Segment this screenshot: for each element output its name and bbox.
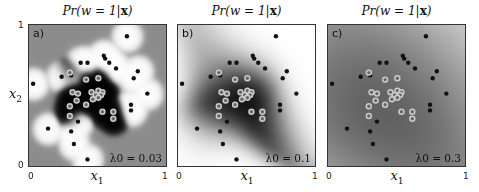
heatmap-canvas	[178, 25, 315, 166]
panel-c-label: c)	[332, 27, 342, 40]
panel-b-heatmap: b) λ0 = 0.1	[177, 24, 316, 167]
panel-a-heatmap: a) λ0 = 0.03	[28, 24, 167, 167]
y-axis-label: x2	[9, 86, 22, 104]
y-tick-1: 1	[18, 20, 24, 30]
panel-b-title: Pr(w = 1|x)	[177, 4, 316, 18]
panel-b-x-tick-0: 0	[176, 171, 182, 181]
panel-c-lambda: λ0 = 0.3	[415, 152, 461, 164]
panel-a-x-tick-0: 0	[28, 171, 34, 181]
heatmap-canvas	[328, 25, 465, 166]
heatmap-canvas	[29, 25, 166, 166]
panel-c-title: Pr(w = 1|x)	[327, 4, 466, 18]
panel-a-label: a)	[33, 27, 44, 40]
panel-a-x-label: x1	[77, 168, 117, 186]
panel-a-x-tick-1: 1	[162, 171, 168, 181]
panel-c-x-label: x1	[377, 168, 417, 186]
y-tick-0: 0	[18, 160, 24, 170]
panel-a-lambda: λ0 = 0.03	[110, 152, 162, 164]
panel-c-heatmap: c) λ0 = 0.3	[327, 24, 466, 167]
panel-c-x-tick-0: 0	[326, 171, 332, 181]
panel-b-label: b)	[182, 27, 193, 40]
panel-c-x-tick-1: 1	[463, 171, 469, 181]
panel-b-lambda: λ0 = 0.1	[265, 152, 311, 164]
panel-a-title: Pr(w = 1|x)	[28, 4, 167, 18]
panel-b-x-label: x1	[227, 168, 267, 186]
panel-b-x-tick-1: 1	[312, 171, 318, 181]
